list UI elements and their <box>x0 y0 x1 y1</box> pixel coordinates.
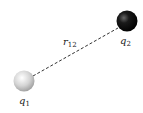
charge-q1-sphere <box>14 71 35 92</box>
distance-label: r12 <box>63 36 77 49</box>
distance-line <box>33 28 118 76</box>
charge-q2-label: q2 <box>120 35 131 48</box>
coulomb-diagram: r12 q1 q2 <box>0 0 143 113</box>
charge-q1-label: q1 <box>19 95 30 108</box>
charge-q2-sphere <box>117 11 138 32</box>
